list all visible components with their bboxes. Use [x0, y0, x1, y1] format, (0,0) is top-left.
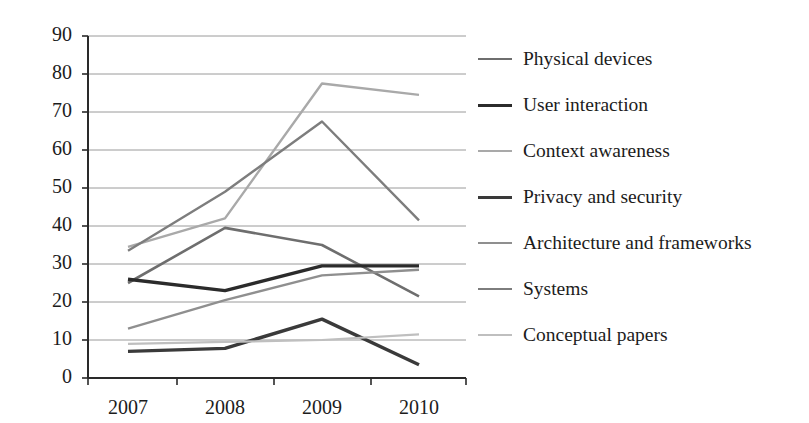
- legend-label-physical-devices: Physical devices: [523, 49, 652, 69]
- x-tick-label: 2007: [88, 396, 168, 419]
- legend-swatch-context-awareness: [478, 150, 512, 152]
- legend-label-systems: Systems: [523, 279, 588, 299]
- gridlines-group: [88, 36, 466, 340]
- legend-swatch-physical-devices: [478, 58, 512, 60]
- y-tick-label: 90: [32, 23, 72, 46]
- legend-entry-physical-devices[interactable]: Physical devices: [478, 36, 803, 82]
- legend-label-conceptual-papers: Conceptual papers: [523, 325, 668, 345]
- series-lines-group: [128, 84, 419, 365]
- legend-entry-context-awareness[interactable]: Context awareness: [478, 128, 803, 174]
- y-tick-label: 40: [32, 213, 72, 236]
- legend-entry-privacy-and-security[interactable]: Privacy and security: [478, 174, 803, 220]
- y-tick-label: 10: [32, 327, 72, 350]
- x-tick-label: 2010: [379, 396, 459, 419]
- legend-swatch-user-interaction: [478, 104, 512, 107]
- legend-label-context-awareness: Context awareness: [523, 141, 670, 161]
- y-tick-label: 30: [32, 251, 72, 274]
- y-tick-label: 0: [32, 365, 72, 388]
- y-tick-label: 20: [32, 289, 72, 312]
- legend-label-architecture-and-frameworks: Architecture and frameworks: [523, 233, 751, 253]
- legend-entry-systems[interactable]: Systems: [478, 266, 803, 312]
- legend-swatch-privacy-and-security: [478, 196, 512, 199]
- y-tick-label: 70: [32, 99, 72, 122]
- y-tick-label: 60: [32, 137, 72, 160]
- series-line-context-awareness: [128, 84, 419, 247]
- x-tick-label: 2009: [282, 396, 362, 419]
- y-tick-label: 80: [32, 61, 72, 84]
- series-line-systems: [128, 122, 419, 251]
- legend-label-privacy-and-security: Privacy and security: [523, 187, 682, 207]
- legend-swatch-conceptual-papers: [478, 334, 512, 336]
- legend-label-user-interaction: User interaction: [523, 95, 648, 115]
- chart-legend: Physical devicesUser interactionContext …: [478, 36, 803, 358]
- legend-swatch-systems: [478, 288, 512, 290]
- legend-entry-architecture-and-frameworks[interactable]: Architecture and frameworks: [478, 220, 803, 266]
- legend-swatch-architecture-and-frameworks: [478, 242, 512, 244]
- legend-entry-conceptual-papers[interactable]: Conceptual papers: [478, 312, 803, 358]
- x-tick-label: 2008: [185, 396, 265, 419]
- line-chart-figure: 0102030405060708090 2007200820092010 Phy…: [0, 0, 809, 423]
- y-tick-label: 50: [32, 175, 72, 198]
- legend-entry-user-interaction[interactable]: User interaction: [478, 82, 803, 128]
